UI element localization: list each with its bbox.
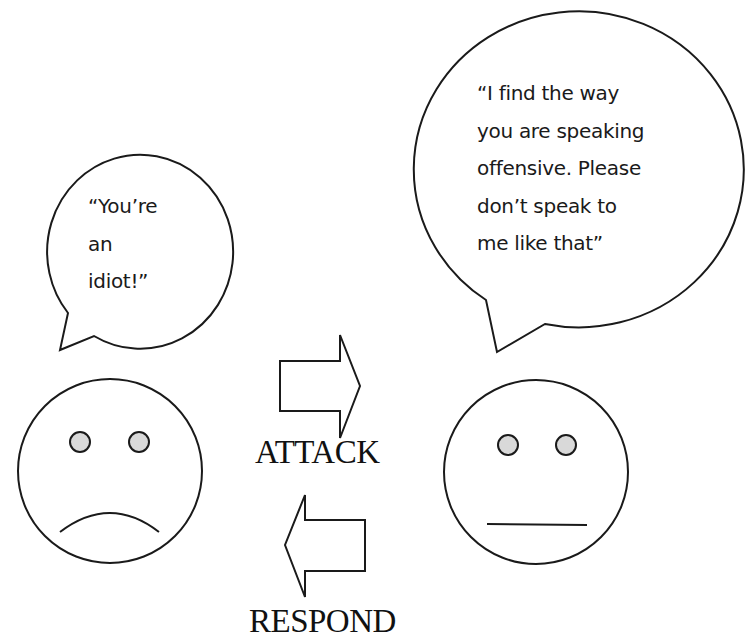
respond-label: RESPOND xyxy=(249,605,396,638)
attack-label: ATTACK xyxy=(255,436,380,469)
attacker-speech-text: “You’re an idiot!” xyxy=(88,188,157,301)
speech-line: you are speaking xyxy=(477,113,644,151)
flat-mouth xyxy=(487,524,587,525)
left-eye xyxy=(70,432,90,452)
left-eye xyxy=(498,435,518,455)
arrow-left-icon xyxy=(285,495,365,597)
right-eye xyxy=(556,435,576,455)
speech-line: “You’re xyxy=(88,188,157,226)
speech-line: an xyxy=(88,226,157,264)
neutral-face-icon xyxy=(444,380,628,564)
arrow-right-icon xyxy=(280,335,360,438)
sad-face-icon xyxy=(18,379,202,563)
responder-speech-text: “I find the way you are speaking offensi… xyxy=(477,75,644,263)
speech-line: “I find the way xyxy=(477,75,644,113)
speech-line: me like that” xyxy=(477,225,644,263)
speech-line: idiot!” xyxy=(88,263,157,301)
right-eye xyxy=(129,432,149,452)
speech-line: offensive. Please xyxy=(477,150,644,188)
speech-line: don’t speak to xyxy=(477,188,644,226)
